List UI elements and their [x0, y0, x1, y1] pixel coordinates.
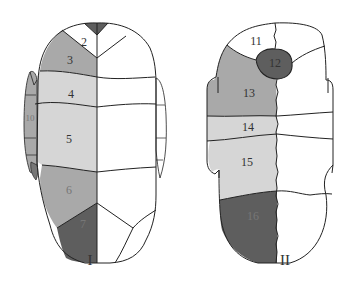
figure-2: 11 12 13 14 15 16 II — [207, 23, 333, 268]
figure-2-label-16: 16 — [247, 209, 259, 223]
diagram-canvas: 2 3 4 5 6 7 10 9 I — [0, 0, 362, 283]
figure-2-label-14: 14 — [242, 120, 254, 134]
figure-1-label-9: 9 — [32, 169, 36, 177]
figure-1-label-6: 6 — [66, 183, 72, 197]
figure-2-label-11: 11 — [250, 34, 262, 48]
figure-1-label-2: 2 — [81, 35, 87, 49]
figure-1-label-10: 10 — [26, 113, 36, 123]
figure-2-label-12: 12 — [269, 56, 281, 70]
figure-1-label-7: 7 — [80, 217, 86, 231]
figure-1: 2 3 4 5 6 7 10 9 I — [24, 23, 166, 268]
figure-2-label-13: 13 — [243, 86, 255, 100]
figure-1-caption: I — [88, 252, 93, 268]
figure-1-label-5: 5 — [66, 132, 72, 146]
figure-2-region-16 — [220, 191, 277, 263]
figure-2-label-15: 15 — [241, 155, 253, 169]
figure-1-right-margin — [156, 78, 166, 178]
figure-2-caption: II — [280, 252, 290, 268]
figure-1-right-half — [97, 23, 156, 263]
figure-1-region-4 — [35, 71, 97, 107]
figure-1-label-4: 4 — [68, 87, 74, 101]
figure-1-label-3: 3 — [67, 53, 73, 67]
